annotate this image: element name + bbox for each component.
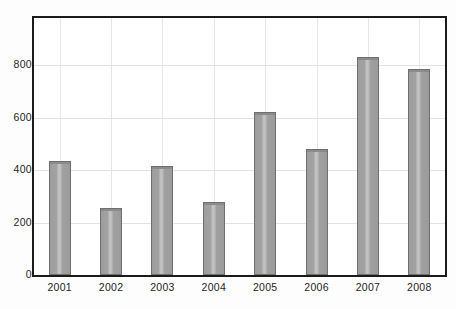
y-tick-label: 200 [0, 216, 32, 228]
gridline-horizontal [34, 223, 445, 224]
gridline-horizontal [34, 65, 445, 66]
y-tick-label: 0 [0, 268, 32, 280]
bar-chart-figure: 0200400600800 20012002200320042005200620… [0, 0, 456, 309]
bar-2008[interactable] [408, 69, 430, 275]
gridline-horizontal [34, 118, 445, 119]
y-tick-label: 600 [0, 111, 32, 123]
bar-2001[interactable] [49, 161, 71, 275]
x-tick-label-2008: 2008 [389, 281, 449, 293]
bar-2007[interactable] [357, 57, 379, 275]
bar-2005[interactable] [254, 112, 276, 275]
bar-2004[interactable] [203, 202, 225, 275]
bar-2003[interactable] [151, 166, 173, 275]
plot-inner [34, 18, 445, 275]
bar-2002[interactable] [100, 208, 122, 275]
bar-2006[interactable] [306, 149, 328, 275]
y-tick-label: 400 [0, 163, 32, 175]
y-tick-label: 800 [0, 58, 32, 70]
x-axis-tick-labels: 20012002200320042005200620072008 [32, 281, 447, 301]
plot-area [32, 16, 447, 277]
gridline-horizontal [34, 170, 445, 171]
